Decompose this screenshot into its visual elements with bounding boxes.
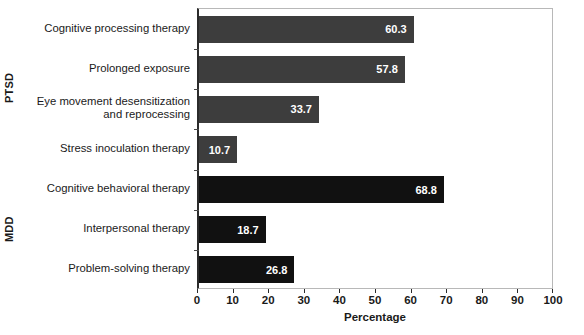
category-axis-tick	[194, 89, 199, 90]
x-axis-tick	[446, 289, 447, 293]
x-axis-tick-label: 30	[297, 294, 310, 306]
bar-value-label: 10.7	[209, 144, 237, 156]
x-axis-title: Percentage	[197, 311, 553, 323]
x-axis-tick-label: 10	[226, 294, 239, 306]
x-axis-tick-label: 40	[333, 294, 346, 306]
category-label: Prolonged exposure	[89, 62, 197, 75]
bar-value-label: 18.7	[237, 224, 265, 236]
x-axis-tick	[517, 289, 518, 293]
category-axis-tick	[194, 210, 199, 211]
x-axis-tick-label: 60	[404, 294, 417, 306]
category-axis-tick	[194, 170, 199, 171]
x-axis-tick	[375, 289, 376, 293]
group-axis-label-mdd: MDD	[0, 170, 18, 288]
bar-value-label: 57.8	[376, 63, 404, 75]
bar-value-label: 33.7	[291, 103, 319, 115]
category-label: Cognitive processing therapy	[44, 22, 197, 35]
bar: 18.7	[199, 216, 266, 243]
x-axis-tick-label: 100	[543, 294, 562, 306]
group-axis-label-ptsd: PTSD	[0, 8, 18, 168]
category-axis-tick	[194, 129, 199, 130]
x-axis-tick	[233, 289, 234, 293]
category-label: Stress inoculation therapy	[60, 142, 197, 155]
bar: 57.8	[199, 56, 405, 83]
bar: 33.7	[199, 96, 319, 123]
x-axis-tick	[197, 289, 198, 293]
category-axis-tick	[194, 250, 199, 251]
bar-value-label: 26.8	[266, 264, 294, 276]
x-axis-tick	[411, 289, 412, 293]
category-label: Cognitive behavioral therapy	[47, 182, 197, 195]
bar: 10.7	[199, 136, 237, 163]
x-axis-tick-label: 80	[475, 294, 488, 306]
category-label: Problem-solving therapy	[68, 262, 197, 275]
bar: 26.8	[199, 256, 294, 283]
x-axis-tick-label: 90	[511, 294, 524, 306]
x-axis-tick-label: 20	[262, 294, 275, 306]
x-axis-tick	[339, 289, 340, 293]
plot-area: 60.357.833.710.768.818.726.8	[197, 8, 553, 289]
category-label: Eye movement desensitization and reproce…	[37, 95, 197, 121]
x-axis-tick-label: 0	[194, 294, 200, 306]
x-axis-tick-label: 50	[369, 294, 382, 306]
bar: 60.3	[199, 16, 414, 43]
x-axis-tick-label: 70	[440, 294, 453, 306]
x-axis-tick	[482, 289, 483, 293]
x-axis-tick	[552, 289, 553, 293]
category-axis-tick	[194, 49, 199, 50]
bar-value-label: 60.3	[385, 23, 413, 35]
bar: 68.8	[199, 176, 444, 203]
category-label: Interpersonal therapy	[83, 222, 197, 235]
bar-chart: PTSD MDD Cognitive processing therapyPro…	[0, 0, 584, 335]
category-axis-labels: Cognitive processing therapyProlonged ex…	[18, 0, 197, 290]
x-axis-tick	[268, 289, 269, 293]
bar-value-label: 68.8	[416, 184, 444, 196]
x-axis-tick	[304, 289, 305, 293]
